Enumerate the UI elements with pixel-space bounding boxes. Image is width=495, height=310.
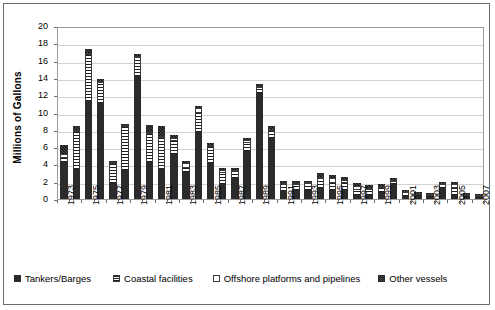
x-axis-tick-label: 2005 — [449, 204, 461, 244]
x-axis-tick-mark — [240, 200, 241, 203]
y-axis-tick-label: 4 — [4, 160, 48, 169]
legend-label-other-vessels: Other vessels — [389, 273, 447, 284]
bar-segment-coastal-facilities — [97, 83, 105, 103]
legend-swatch-tankers-barges — [14, 275, 21, 282]
plot-area — [57, 27, 484, 200]
bar-segment-coastal-facilities — [170, 141, 178, 154]
y-axis-tick-label: 6 — [4, 143, 48, 152]
x-axis-tick-mark — [472, 200, 473, 203]
bar-segment-coastal-facilities — [85, 55, 93, 102]
x-axis-tick-mark — [313, 200, 314, 203]
x-axis-tick-mark — [289, 200, 290, 203]
bar-1989[interactable] — [256, 84, 264, 199]
y-axis-tick-label: 16 — [4, 57, 48, 66]
bar-segment-coastal-facilities — [146, 134, 154, 162]
x-axis-tick-label: 1975 — [83, 204, 95, 244]
x-axis-tick-mark — [167, 200, 168, 203]
y-axis-tick-label: 8 — [4, 126, 48, 135]
x-axis-tick-mark — [106, 200, 107, 203]
bar-1975[interactable] — [85, 49, 93, 199]
x-axis-tick-mark — [179, 200, 180, 203]
bar-segment-coastal-facilities — [158, 138, 166, 169]
x-axis-tick-mark — [374, 200, 375, 203]
x-axis-tick-mark — [411, 200, 412, 203]
x-axis-tick-mark — [203, 200, 204, 203]
x-axis-tick-mark — [118, 200, 119, 203]
x-axis-tick-mark — [301, 200, 302, 203]
x-axis-tick-label: 1981 — [156, 204, 168, 244]
y-axis-tick-label: 0 — [4, 195, 48, 204]
x-axis-tick-mark — [57, 200, 58, 203]
x-axis-tick-label: 1991 — [278, 204, 290, 244]
x-axis-tick-mark — [155, 200, 156, 203]
bar-segment-coastal-facilities — [207, 147, 215, 163]
legend-item-offshore-platforms: Offshore platforms and pipelines — [213, 273, 361, 284]
bar-segment-coastal-facilities — [73, 132, 81, 169]
x-axis-tick-label: 2007 — [473, 204, 485, 244]
bar-segment-coastal-facilities — [219, 173, 227, 184]
legend-label-coastal-facilities: Coastal facilities — [124, 273, 193, 284]
x-axis-tick-label: 1989 — [253, 204, 265, 244]
x-axis-tick-mark — [277, 200, 278, 203]
x-axis-tick-mark — [191, 200, 192, 203]
x-axis-tick-mark — [94, 200, 95, 203]
x-axis-tick-mark — [399, 200, 400, 203]
x-axis-tick-label: 1973 — [58, 204, 70, 244]
legend-item-other-vessels: Other vessels — [378, 273, 447, 284]
bar-segment-other-vessels — [60, 145, 68, 154]
x-axis-tick-mark — [81, 200, 82, 203]
x-axis-tick-label: 1985 — [205, 204, 217, 244]
bar-segment-coastal-facilities — [121, 127, 129, 170]
legend-swatch-coastal-facilities — [113, 275, 120, 282]
y-axis-tick-label: 10 — [4, 109, 48, 118]
x-axis-tick-mark — [228, 200, 229, 203]
bar-segment-other-vessels — [146, 125, 154, 132]
chart-frame: Millions of Gallons 02468101214161820 19… — [3, 3, 490, 305]
bar-segment-coastal-facilities — [195, 113, 203, 133]
x-axis-tick-mark — [130, 200, 131, 203]
legend-swatch-other-vessels — [378, 275, 385, 282]
x-axis-tick-mark — [423, 200, 424, 203]
x-axis-tick-label: 1997 — [351, 204, 363, 244]
x-axis-tick-mark — [460, 200, 461, 203]
x-axis-tick-label: 1993 — [302, 204, 314, 244]
y-axis-tick-label: 2 — [4, 178, 48, 187]
x-axis-tick-mark — [338, 200, 339, 203]
bar-segment-coastal-facilities — [243, 143, 251, 152]
legend-label-offshore-platforms: Offshore platforms and pipelines — [224, 273, 361, 284]
x-axis-tick-mark — [350, 200, 351, 203]
legend-swatch-offshore-platforms — [213, 275, 220, 282]
bar-segment-coastal-facilities — [109, 164, 117, 183]
x-axis-tick-label: 1995 — [327, 204, 339, 244]
x-axis-tick-mark — [484, 200, 485, 203]
x-axis-tick-label: 1987 — [229, 204, 241, 244]
bar-segment-tankers-barges — [134, 76, 142, 199]
x-axis-tick-mark — [362, 200, 363, 203]
x-axis-tick-label: 1979 — [131, 204, 143, 244]
bar-segment-coastal-facilities — [268, 131, 276, 139]
x-axis-tick-mark — [252, 200, 253, 203]
x-axis-tick-label: 1983 — [180, 204, 192, 244]
x-axis-tick-mark — [216, 200, 217, 203]
x-axis-tick-mark — [142, 200, 143, 203]
legend-item-tankers-barges: Tankers/Barges — [14, 273, 91, 284]
x-axis-tick-mark — [69, 200, 70, 203]
y-axis-tick-label: 14 — [4, 74, 48, 83]
legend-label-tankers-barges: Tankers/Barges — [25, 273, 91, 284]
x-axis-tick-label: 2001 — [400, 204, 412, 244]
bar-1976[interactable] — [97, 79, 105, 199]
x-axis-tick-label: 1999 — [375, 204, 387, 244]
y-axis-tick-label: 12 — [4, 91, 48, 100]
x-axis-tick-mark — [325, 200, 326, 203]
chart-legend: Tankers/Barges Coastal facilities Offsho… — [14, 270, 479, 286]
x-axis-tick-mark — [435, 200, 436, 203]
bar-segment-other-vessels — [158, 126, 166, 136]
legend-item-coastal-facilities: Coastal facilities — [113, 273, 193, 284]
bar-1979[interactable] — [134, 54, 142, 199]
bar-segment-coastal-facilities — [134, 58, 142, 76]
y-axis-tick-label: 18 — [4, 39, 48, 48]
bar-series-container — [58, 28, 483, 199]
bar-segment-tankers-barges — [256, 93, 264, 199]
x-axis-tick-mark — [386, 200, 387, 203]
y-axis-tick-label: 20 — [4, 22, 48, 31]
